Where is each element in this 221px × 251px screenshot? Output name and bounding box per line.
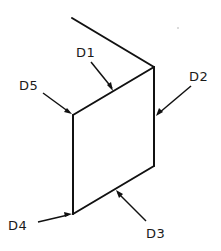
- panel-diagram: D1 D5 D2 D3 D4: [0, 0, 221, 251]
- bottom-edge: [73, 166, 154, 214]
- label-d3: D3: [146, 226, 165, 241]
- d4-leader: [38, 212, 72, 222]
- label-d1: D1: [76, 45, 95, 60]
- d4-arrow-icon: [64, 212, 72, 217]
- label-d4: D4: [8, 218, 27, 233]
- d1-leader: [91, 62, 113, 91]
- top-edge: [73, 67, 154, 115]
- scan-speck: [177, 27, 179, 29]
- label-d2: D2: [189, 69, 208, 84]
- d2-leader: [156, 86, 191, 116]
- d3-leader: [116, 190, 146, 221]
- label-d5: D5: [19, 78, 38, 93]
- d2-arrow-icon: [156, 108, 163, 116]
- d5-leader: [43, 93, 72, 114]
